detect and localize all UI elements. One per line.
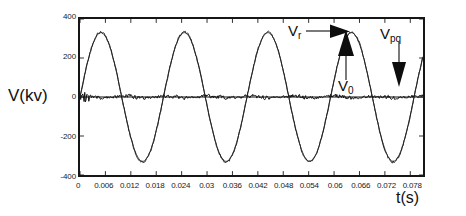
x-tick-label: 0.012: [120, 182, 139, 190]
annotation-v0: V0: [338, 78, 354, 93]
annotation-symbol: V: [380, 25, 390, 42]
chart-figure: 4002000-200-400 V(kv) 00.0060.0120.0180.…: [0, 0, 466, 216]
x-tick-label: 0.066: [351, 182, 370, 190]
x-tick-label: 0.048: [274, 182, 293, 190]
annotation-subscript: r: [298, 30, 301, 41]
x-tick-label: 0.006: [94, 182, 113, 190]
x-tick-label: 0.018: [146, 182, 165, 190]
arrow-down-icon: [388, 42, 410, 88]
x-axis-title: t(s): [396, 189, 419, 207]
x-tick-label: 0.06: [328, 182, 343, 190]
annotation-symbol: V: [288, 22, 298, 39]
annotation-vr: Vr: [288, 23, 301, 38]
annotation-vpq: Vpq: [380, 26, 401, 41]
x-tick-label: 0: [76, 182, 80, 190]
arrow-up-icon: [335, 30, 357, 80]
annotation-subscript: 0: [348, 85, 354, 96]
x-tick-label: 0.036: [223, 182, 242, 190]
x-tick-label: 0.072: [377, 182, 396, 190]
x-tick-label: 0.03: [199, 182, 214, 190]
x-tick-label: 0.054: [300, 182, 319, 190]
x-tick-label: 0.024: [171, 182, 190, 190]
x-tick-label: 0.042: [248, 182, 267, 190]
